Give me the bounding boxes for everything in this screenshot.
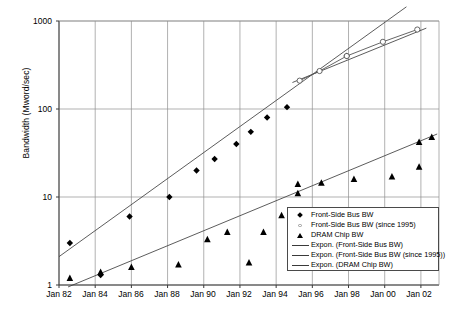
chart-root: Bandwidth (Mword/sec) 1000 100 10 1 Jan … — [0, 0, 460, 311]
diamond-marker-icon — [291, 210, 311, 220]
legend-label: Front-Side Bus BW (since 1995) — [311, 220, 416, 230]
line-swatch-icon — [291, 240, 311, 250]
legend-item-0: Front-Side Bus BW — [288, 210, 438, 220]
legend-item-3: Expon. (Front-Side Bus BW) — [288, 240, 438, 250]
legend-label: Front-Side Bus BW — [311, 210, 373, 220]
legend: Front-Side Bus BW Front-Side Bus BW (sin… — [287, 207, 439, 271]
legend-item-5: Expon. (DRAM Chip BW) — [288, 260, 438, 270]
circle-marker-icon — [291, 220, 311, 230]
legend-item-4: Expon. (Front-Side Bus BW (since 1995)) — [288, 250, 438, 260]
legend-item-1: Front-Side Bus BW (since 1995) — [288, 220, 438, 230]
legend-label: Expon. (Front-Side Bus BW (since 1995)) — [311, 250, 445, 260]
line-swatch-icon — [291, 260, 311, 270]
legend-item-2: DRAM Chip BW — [288, 230, 438, 240]
legend-label: DRAM Chip BW — [311, 230, 363, 240]
legend-label: Expon. (Front-Side Bus BW) — [311, 240, 403, 250]
line-swatch-icon — [291, 250, 311, 260]
legend-label: Expon. (DRAM Chip BW) — [311, 260, 393, 270]
triangle-marker-icon — [291, 230, 311, 240]
